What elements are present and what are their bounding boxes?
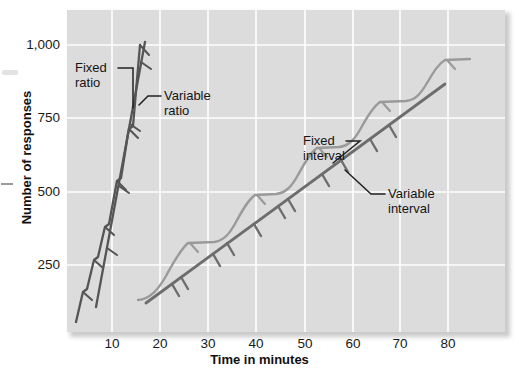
leader-variable-interval [345, 170, 385, 194]
callout-leader-lines [118, 68, 385, 194]
callout-variable-interval: Variable interval [388, 186, 435, 216]
leader-variable-ratio [139, 96, 161, 105]
callout-variable-ratio: Variable ratio [164, 88, 211, 118]
leader-fixed-ratio [118, 68, 133, 108]
variable-ratio-hatch-marks [107, 62, 151, 255]
variable-interval-hatch-marks [172, 125, 396, 296]
callout-fixed-ratio: Fixed ratio [75, 60, 107, 90]
callout-fixed-interval: Fixed interval [303, 133, 345, 163]
plot-vector-layer [0, 0, 519, 378]
response-curves-figure: 1,000 750 500 250 10 20 30 40 50 60 70 8… [0, 0, 519, 378]
